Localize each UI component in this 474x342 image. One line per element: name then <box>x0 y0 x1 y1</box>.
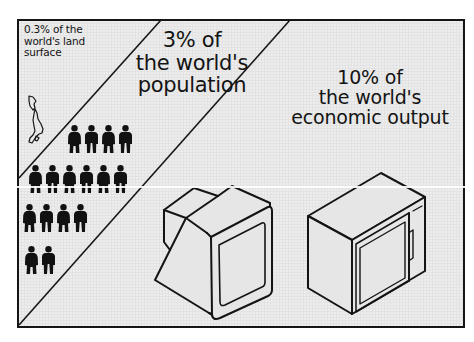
microwave-oven-icon <box>308 173 425 314</box>
land-line-1: 0.3% of the <box>24 24 85 36</box>
scan-artifact-line <box>0 186 474 188</box>
person-icon <box>74 204 87 232</box>
person-icon <box>97 165 110 193</box>
person-icon <box>80 165 93 193</box>
computer-monitor-icon <box>155 186 272 319</box>
japan-map-icon <box>29 96 43 143</box>
person-icon <box>25 246 38 274</box>
land-surface-label: 0.3% of the world's land surface <box>24 24 85 59</box>
person-icon <box>85 125 98 153</box>
person-icon <box>40 204 53 232</box>
economic-output-label: 10% of the world's economic output <box>268 67 472 127</box>
person-icon <box>114 165 127 193</box>
economy-line-1: 10% of <box>268 67 472 87</box>
person-icon <box>68 125 81 153</box>
population-pictogram <box>23 125 132 274</box>
person-icon <box>23 204 36 232</box>
population-line-1: 3% of <box>128 29 256 52</box>
economy-line-2: the world's <box>268 87 472 107</box>
population-line-2: the world's <box>128 52 256 75</box>
person-icon <box>42 246 55 274</box>
person-icon <box>29 165 42 193</box>
person-icon <box>57 204 70 232</box>
infographic: 0.3% of the world's land surface 3% of t… <box>0 0 474 342</box>
person-icon <box>46 165 59 193</box>
economy-line-3: economic output <box>268 107 472 127</box>
person-icon <box>119 125 132 153</box>
land-line-3: surface <box>24 47 85 59</box>
population-line-3: population <box>128 74 256 97</box>
population-label: 3% of the world's population <box>128 29 256 97</box>
person-icon <box>63 165 76 193</box>
person-icon <box>102 125 115 153</box>
